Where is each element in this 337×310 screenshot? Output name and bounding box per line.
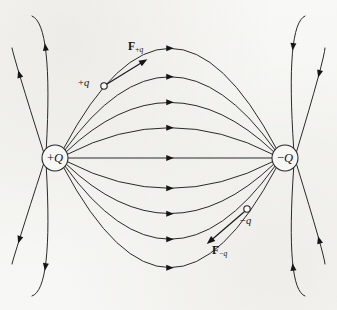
field-line-5 <box>67 162 272 189</box>
outer-left-lower-inner <box>12 164 44 264</box>
connecting-field-lines-group <box>64 45 277 271</box>
field-line-arrow-7 <box>166 236 174 242</box>
negative-test-charge-marker <box>244 206 250 212</box>
negative-test-charge-symbol: q <box>246 215 251 226</box>
positive-charge-symbol: Q <box>54 151 63 165</box>
field-line-arrow-0 <box>166 45 174 51</box>
outer-left-lower-inner-arrow <box>18 235 24 243</box>
field-line-arrow-1 <box>166 74 174 80</box>
field-line-arrow-8 <box>166 265 174 271</box>
negative-charge-label: −Q <box>277 152 293 165</box>
positive-charge-label: +Q <box>47 152 63 165</box>
positive-test-charge-label: +q <box>78 78 89 89</box>
force-negative-sub-symbol: q <box>224 249 228 258</box>
outer-right-upper-outer-arrow <box>290 43 296 51</box>
field-line-arrow-3 <box>166 125 174 131</box>
outer-left-lower-outer-arrow <box>43 263 49 271</box>
force-positive-sub-symbol: q <box>140 45 144 54</box>
field-line-0 <box>64 48 277 148</box>
outer-left-upper-outer <box>32 16 48 148</box>
outer-left-upper-inner-arrow <box>17 70 23 78</box>
negative-charge-sign: − <box>277 151 284 165</box>
field-line-arrow-5 <box>166 185 174 191</box>
field-line-arrow-4 <box>166 155 174 161</box>
outer-right-upper-outer <box>291 16 305 148</box>
field-line-arrow-6 <box>166 211 174 217</box>
force-positive-label: F+q <box>128 41 143 54</box>
negative-charge-symbol: Q <box>284 151 293 165</box>
field-line-arrow-2 <box>166 99 174 105</box>
electric-dipole-figure: +Q −Q +q −q F+q F−q <box>0 0 337 310</box>
force-positive-base: F <box>128 40 135 52</box>
force-on-positive-test-charge-arrowhead <box>138 59 147 66</box>
outer-right-upper-inner <box>296 48 325 152</box>
outer-right-lower-inner-arrow <box>317 236 323 244</box>
test-charges-group <box>101 59 250 244</box>
positive-test-charge-symbol: q <box>84 77 89 88</box>
outer-left-lower-outer <box>32 168 48 296</box>
outer-left-upper-inner <box>12 48 44 152</box>
outer-right-upper-inner-arrow <box>317 70 323 78</box>
force-positive-subscript: +q <box>135 45 143 54</box>
field-line-1 <box>65 77 275 150</box>
force-negative-subscript: −q <box>219 249 227 258</box>
outer-right-lower-inner <box>296 164 325 264</box>
force-on-positive-test-charge-shaft <box>107 62 143 84</box>
force-negative-base: F <box>212 244 219 256</box>
outer-right-lower-outer-arrow <box>290 263 296 271</box>
positive-charge-sign: + <box>47 151 54 165</box>
negative-test-charge-label: −q <box>240 216 251 227</box>
force-negative-label: F−q <box>212 245 227 258</box>
field-line-7 <box>65 166 275 239</box>
field-line-3 <box>67 128 272 155</box>
outer-left-upper-outer-arrow <box>43 43 49 51</box>
positive-test-charge-marker <box>101 83 107 89</box>
